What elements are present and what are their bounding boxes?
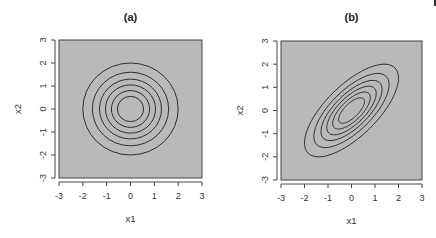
x-axis: -3-2-10123x1: [55, 182, 205, 224]
x-tick-label: 0: [349, 193, 354, 203]
x-tick-label: -1: [324, 193, 332, 203]
x-axis: -3-2-10123x1: [277, 184, 425, 226]
y-tick-label: -3: [260, 176, 270, 184]
y-tick-label: -1: [38, 128, 48, 136]
y-tick-label: -2: [38, 151, 48, 159]
panel-a: -3-2-10123x1-3-2-10123x2(a): [12, 11, 205, 224]
panel-title: (a): [124, 11, 138, 23]
y-tick-label: 1: [38, 83, 48, 88]
x-tick-label: 1: [372, 193, 377, 203]
y-tick-label: 3: [260, 38, 270, 43]
y-tick-label: 0: [260, 108, 270, 113]
y-tick-label: 2: [260, 62, 270, 67]
x-tick-label: -2: [79, 191, 87, 201]
panel-title: (b): [344, 11, 358, 23]
plot-area: [59, 40, 202, 178]
x-tick-label: -3: [277, 193, 285, 203]
plot-area: [281, 41, 422, 180]
y-tick-label: 3: [38, 37, 48, 42]
y-tick-label: 0: [38, 106, 48, 111]
y-tick-label: 1: [260, 85, 270, 90]
x-tick-label: 1: [152, 191, 157, 201]
x-tick-label: -2: [300, 193, 308, 203]
y-axis-label: x2: [234, 105, 245, 115]
y-axis-label: x2: [12, 104, 23, 114]
y-tick-label: -2: [260, 153, 270, 161]
x-axis-label: x1: [125, 213, 135, 224]
x-tick-label: -3: [55, 191, 63, 201]
y-tick-label: -3: [38, 174, 48, 182]
figure: -3-2-10123x1-3-2-10123x2(a) -3-2-10123x1…: [0, 0, 436, 238]
x-tick-label: 3: [199, 191, 204, 201]
x-tick-label: 3: [419, 193, 424, 203]
x-tick-label: 2: [396, 193, 401, 203]
x-tick-label: -1: [103, 191, 111, 201]
y-axis: -3-2-10123x2: [234, 38, 277, 184]
x-tick-label: 2: [176, 191, 181, 201]
y-tick-label: 2: [38, 60, 48, 65]
x-axis-label: x1: [346, 215, 356, 226]
x-tick-label: 0: [128, 191, 133, 201]
y-axis: -3-2-10123x2: [12, 37, 55, 182]
panel-b: -3-2-10123x1-3-2-10123x2(b): [234, 11, 425, 226]
y-tick-label: -1: [260, 130, 270, 138]
